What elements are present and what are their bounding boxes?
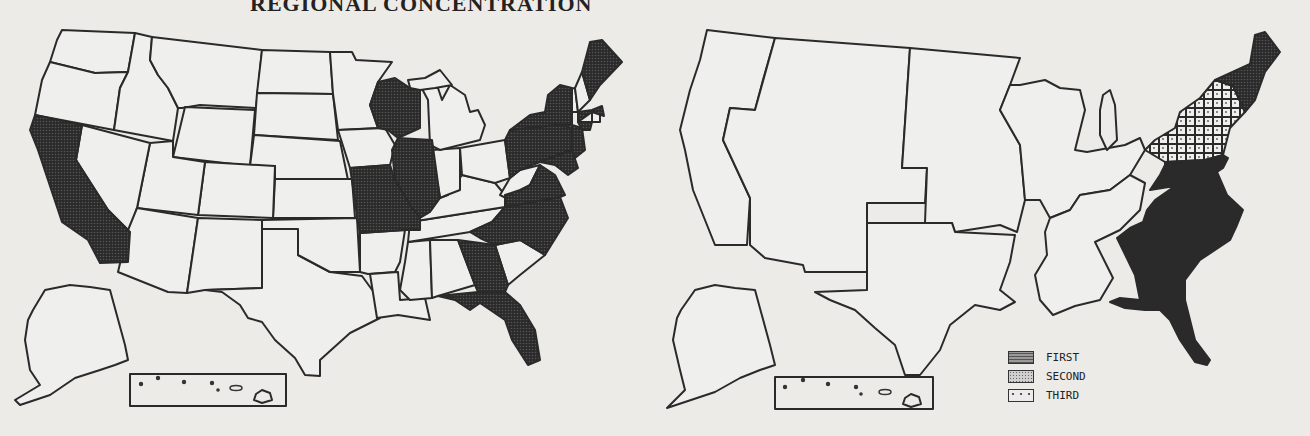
legend-label: FIRST [1046, 351, 1079, 364]
state-florida [438, 292, 540, 365]
map-regions [655, 0, 1310, 436]
state-alaska [667, 285, 775, 408]
legend-item-third: THIRD [1008, 386, 1086, 405]
legend: FIRST SECOND THIRD [1008, 348, 1086, 405]
state-arkansas [360, 230, 405, 274]
state-iowa [338, 128, 395, 168]
third-swatch-icon [1008, 389, 1034, 402]
region-west-north-central [902, 48, 1025, 232]
legend-label: THIRD [1046, 389, 1079, 402]
state-south-dakota [254, 93, 338, 140]
state-maine [582, 40, 622, 100]
lake-michigan [1100, 90, 1117, 150]
state-alaska [15, 285, 128, 405]
state-new-mexico [187, 218, 262, 293]
hawaii-inset [775, 377, 933, 409]
state-new-york [510, 85, 572, 130]
state-kansas [273, 179, 355, 218]
legend-item-second: SECOND [1008, 367, 1086, 386]
state-mississippi [400, 240, 432, 300]
map-states [0, 0, 655, 436]
legend-item-first: FIRST [1008, 348, 1086, 367]
state-north-dakota [257, 50, 333, 94]
region-middle-atlantic [1145, 80, 1245, 162]
first-swatch-icon [1008, 351, 1034, 364]
state-ohio [460, 140, 510, 183]
second-swatch-icon [1008, 370, 1034, 383]
legend-label: SECOND [1046, 370, 1086, 383]
state-colorado [198, 162, 275, 218]
state-wyoming [173, 107, 255, 166]
